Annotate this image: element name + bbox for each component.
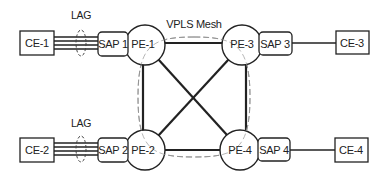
- ce3-label: CE-3: [340, 37, 364, 49]
- lag-ellipse-2: [76, 136, 86, 162]
- lag-label-2: LAG: [71, 117, 91, 129]
- vpls-mesh-title: VPLS Mesh: [166, 18, 222, 30]
- sap2-label: SAP 2: [98, 144, 128, 156]
- pe3-label: PE-3: [230, 38, 253, 50]
- vpls-mesh-diagram: VPLS Mesh LAG LAG CE-1 CE-2 CE-3 CE-4 SA…: [0, 0, 388, 178]
- sap3-label: SAP 3: [260, 38, 290, 50]
- ce2-label: CE-2: [25, 144, 49, 156]
- pe4-label: PE-4: [228, 144, 251, 156]
- ce4-label: CE-4: [339, 144, 363, 156]
- pe2-label: PE-2: [131, 144, 154, 156]
- ce1-label: CE-1: [25, 37, 49, 49]
- lag-label-1: LAG: [71, 9, 91, 21]
- lag-ellipse-1: [76, 30, 86, 56]
- pe1-label: PE-1: [131, 38, 154, 50]
- sap4-label: SAP 4: [259, 144, 289, 156]
- sap1-label: SAP 1: [98, 38, 128, 50]
